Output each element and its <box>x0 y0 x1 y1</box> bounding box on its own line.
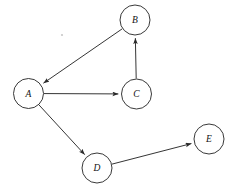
node-label-a: A <box>25 89 32 99</box>
node-c[interactable]: C <box>122 79 152 109</box>
node-label-e: E <box>205 134 212 144</box>
node-d[interactable]: D <box>82 153 112 183</box>
node-a[interactable]: A <box>14 79 44 109</box>
node-e[interactable]: E <box>194 124 224 154</box>
edge-a-to-d <box>39 105 85 155</box>
node-b[interactable]: B <box>120 5 150 35</box>
edges-group <box>39 29 191 164</box>
node-label-c: C <box>133 89 140 99</box>
graph-diagram: ABCDE <box>0 0 235 191</box>
node-label-d: D <box>93 163 101 173</box>
edge-b-to-a <box>43 29 122 83</box>
artifacts-group <box>61 34 63 36</box>
edge-c-to-b <box>135 38 136 78</box>
scan-speck-artifact <box>61 34 63 36</box>
edge-d-to-e <box>112 144 191 165</box>
node-label-b: B <box>132 15 138 25</box>
